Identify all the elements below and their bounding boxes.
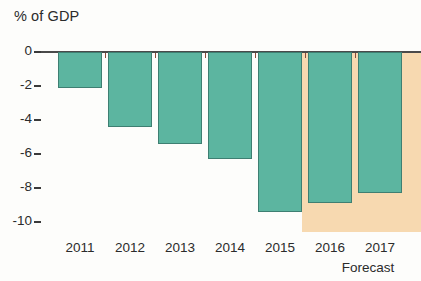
x-label-2013: 2013 xyxy=(152,240,208,255)
y-tick-label-text: -6 xyxy=(20,145,32,160)
y-tick-dash xyxy=(34,221,41,223)
y-tick-label: -2 xyxy=(0,77,32,92)
y-tick-label-text: 0 xyxy=(24,43,32,58)
y-tick-label: -4 xyxy=(0,111,32,126)
y-tick-label-text: -2 xyxy=(20,77,32,92)
x-label-2016: 2016 xyxy=(302,240,358,255)
x-tick-mark xyxy=(205,53,206,58)
y-tick-dash xyxy=(34,187,41,189)
y-tick-dash xyxy=(34,153,41,155)
x-label-2014: 2014 xyxy=(202,240,258,255)
y-tick-label: 0 xyxy=(0,43,32,58)
y-tick-label-text: -4 xyxy=(20,111,32,126)
bar-2017 xyxy=(358,52,402,193)
x-label-2017: 2017 xyxy=(352,240,408,255)
y-tick-dash xyxy=(34,119,41,121)
bar-2016 xyxy=(308,52,352,203)
x-tick-mark xyxy=(105,53,106,58)
gdp-deficit-bar-chart: % of GDP 0-2-4-6-8-10 201120122013201420… xyxy=(0,0,421,281)
x-tick-mark xyxy=(255,53,256,58)
forecast-annotation-label: Forecast xyxy=(318,260,418,275)
y-tick-label: -8 xyxy=(0,179,32,194)
x-tick-mark xyxy=(355,53,356,58)
x-label-2015: 2015 xyxy=(252,240,308,255)
bar-2013 xyxy=(158,52,202,144)
x-label-2011: 2011 xyxy=(52,240,108,255)
y-tick-dash xyxy=(34,51,41,53)
bar-2014 xyxy=(208,52,252,159)
y-tick-label-text: -8 xyxy=(20,179,32,194)
plot-area: 0-2-4-6-8-10 201120122013201420152016201… xyxy=(0,0,421,281)
y-tick-label-text: -10 xyxy=(12,213,32,228)
y-tick-label: -6 xyxy=(0,145,32,160)
x-tick-mark xyxy=(305,53,306,58)
bar-2015 xyxy=(258,52,302,212)
bar-2011 xyxy=(58,52,102,88)
y-tick-label: -10 xyxy=(0,213,32,228)
y-tick-dash xyxy=(34,85,41,87)
bar-2012 xyxy=(108,52,152,127)
x-tick-mark xyxy=(155,53,156,58)
x-label-2012: 2012 xyxy=(102,240,158,255)
